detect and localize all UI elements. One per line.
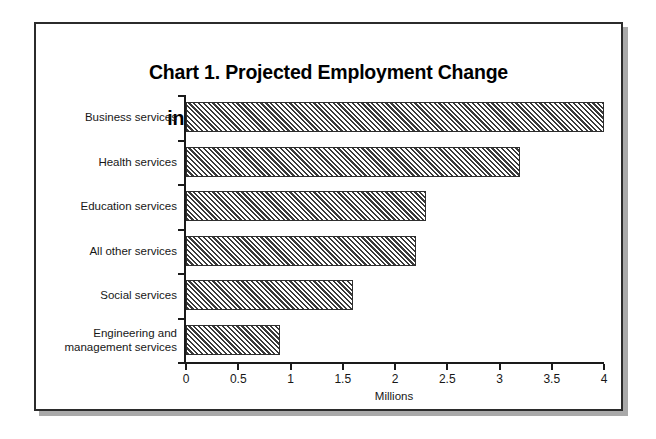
- x-axis-tick-label: 4: [601, 372, 608, 386]
- x-axis-title: Millions: [184, 390, 604, 402]
- category-label-all-other-services: All other services: [37, 244, 177, 258]
- x-axis-tick: [185, 364, 187, 370]
- y-axis-tick: [178, 95, 185, 97]
- x-axis-tick: [446, 364, 448, 370]
- category-label-social-services: Social services: [37, 288, 177, 302]
- y-axis-tick: [178, 318, 185, 320]
- x-axis-tick: [342, 364, 344, 370]
- x-axis-tick-label: 0.5: [230, 372, 247, 386]
- category-label-row: Social services: [36, 273, 177, 318]
- x-axis-tick: [290, 364, 292, 370]
- x-axis-tick-label: 1.5: [334, 372, 351, 386]
- y-axis-tick: [178, 229, 185, 231]
- chart-figure-frame: Chart 1. Projected Employment Change in …: [34, 22, 623, 411]
- bar-social-services: [186, 280, 353, 310]
- x-axis-tick-label: 3.5: [543, 372, 560, 386]
- category-label-row: Education services: [36, 184, 177, 229]
- y-axis-tick: [178, 140, 185, 142]
- x-axis-tick-label: 0: [183, 372, 190, 386]
- bar-all-other-services: [186, 236, 416, 266]
- bar-business-services: [186, 102, 604, 132]
- bar-education-services: [186, 191, 426, 221]
- category-label-row: Health services: [36, 140, 177, 185]
- bar-engineering-and-management-services: [186, 325, 280, 355]
- x-axis-tick: [394, 364, 396, 370]
- x-axis-tick-label: 2.5: [439, 372, 456, 386]
- category-label-row: Engineering and management services: [36, 318, 177, 363]
- x-axis-tick-label: 1: [287, 372, 294, 386]
- x-axis-tick-label: 2: [392, 372, 399, 386]
- category-label-row: Business services: [36, 95, 177, 140]
- category-label-row: All other services: [36, 229, 177, 274]
- x-axis-tick: [499, 364, 501, 370]
- y-axis-tick: [178, 362, 185, 364]
- x-axis-tick-label: 3: [496, 372, 503, 386]
- y-axis-tick: [178, 273, 185, 275]
- x-axis-tick: [237, 364, 239, 370]
- category-label-education-services: Education services: [37, 199, 177, 213]
- x-axis-tick: [551, 364, 553, 370]
- bar-health-services: [186, 147, 520, 177]
- plot-area: Business services Health services Educat…: [36, 24, 621, 409]
- category-label-health-services: Health services: [37, 155, 177, 169]
- x-axis-tick: [603, 364, 605, 370]
- category-label-business-services: Business services: [37, 110, 177, 124]
- y-axis-tick: [178, 184, 185, 186]
- category-label-engineering-and-management-services: Engineering and management services: [37, 326, 177, 354]
